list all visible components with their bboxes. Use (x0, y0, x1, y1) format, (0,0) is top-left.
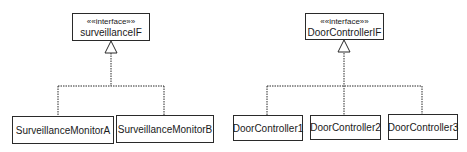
left-realization-arrowhead (105, 41, 117, 53)
class-surveillance-monitor-a: SurveillanceMonitorA (12, 116, 114, 144)
interface-DoorControllerIF: ««interface»» DoorControllerIF (305, 13, 384, 40)
class-name: DoorController1 (233, 123, 304, 134)
right-realization-arrowhead (338, 40, 350, 52)
class-surveillance-monitor-b: SurveillanceMonitorB (116, 115, 214, 143)
class-name: SurveillanceMonitorA (16, 125, 111, 136)
class-door-controller-2: DoorController2 (310, 115, 381, 140)
stereotype-label: ««interface»» (87, 16, 135, 27)
interface-name: surveillanceIF (80, 27, 142, 38)
stereotype-label: ««interface»» (320, 16, 368, 27)
class-door-controller-1: DoorController1 (233, 115, 303, 141)
class-door-controller-3: DoorController3 (388, 114, 458, 140)
interface-surveillanceIF: ««interface»» surveillanceIF (72, 13, 150, 41)
interface-name: DoorControllerIF (308, 27, 382, 38)
class-name: SurveillanceMonitorB (118, 124, 213, 135)
class-name: DoorController3 (388, 122, 459, 133)
class-name: DoorController2 (310, 122, 381, 133)
